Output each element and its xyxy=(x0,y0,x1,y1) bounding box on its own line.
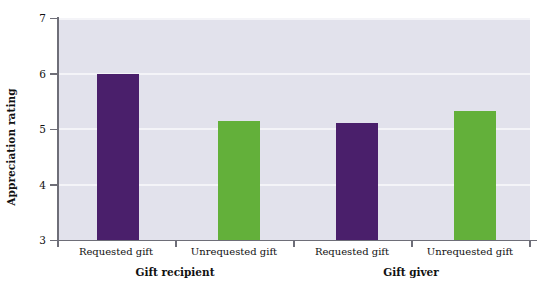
plot-area xyxy=(58,18,530,240)
bar-gift-giver-unrequested xyxy=(454,111,496,240)
bar-gift-recipient-requested xyxy=(97,74,139,241)
y-tick-mark-4 xyxy=(50,184,57,186)
x-category-label-2: Unrequested gift xyxy=(175,246,293,257)
bar-gift-recipient-unrequested xyxy=(218,121,260,240)
y-axis-title: Appreciation rating xyxy=(0,0,22,294)
y-tick-mark-6 xyxy=(50,73,57,75)
y-axis-line xyxy=(57,17,59,241)
x-category-label-3: Requested gift xyxy=(293,246,411,257)
y-tick-label-5: 5 xyxy=(6,123,46,135)
y-tick-mark-3 xyxy=(50,240,57,242)
gridline-y7 xyxy=(58,18,530,20)
y-tick-mark-5 xyxy=(50,129,57,131)
y-tick-label-4: 4 xyxy=(6,179,46,191)
y-tick-mark-7 xyxy=(50,18,57,20)
y-tick-label-6: 6 xyxy=(6,68,46,80)
x-category-label-1: Requested gift xyxy=(57,246,175,257)
x-tick-mark-right-edge xyxy=(529,240,531,247)
x-category-label-4: Unrequested gift xyxy=(411,246,529,257)
y-tick-label-3: 3 xyxy=(6,234,46,246)
bar-chart-figure: Appreciation rating 7 6 5 4 3 Requested … xyxy=(0,0,543,294)
bar-gift-giver-requested xyxy=(336,123,378,240)
group-label-gift-giver: Gift giver xyxy=(293,266,529,278)
group-label-gift-recipient: Gift recipient xyxy=(57,266,293,278)
y-tick-label-7: 7 xyxy=(6,12,46,24)
